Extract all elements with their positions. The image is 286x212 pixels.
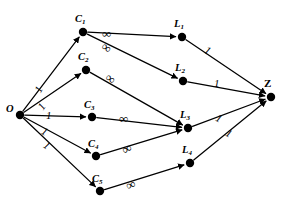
edge-capacity-label-c3-l3: ∞ — [119, 112, 128, 125]
edge-capacity-label-l2-z: 1 — [214, 78, 220, 89]
node-label-subscript: 2 — [181, 67, 185, 75]
edge-c3-to-l3 — [97, 118, 182, 128]
node-label-z: Z — [264, 78, 271, 89]
node-label-c5: C5 — [92, 174, 103, 185]
node-label-text: C — [88, 138, 95, 149]
node-label-text: C — [92, 173, 99, 184]
edge-layer — [23, 32, 266, 189]
node-label-subscript: 4 — [188, 149, 192, 157]
edge-c5-to-l4 — [105, 165, 184, 190]
node-label-c4: C4 — [88, 139, 99, 150]
node-label-l3: L3 — [180, 110, 190, 121]
node-layer — [16, 28, 275, 195]
node-label-text: C — [84, 99, 91, 110]
node-label-text: O — [6, 103, 14, 114]
node-label-c2: C2 — [78, 52, 89, 63]
edge-o-to-c1 — [23, 37, 79, 111]
node-label-c1: C1 — [75, 14, 86, 25]
node-c3 — [88, 113, 96, 121]
node-z — [267, 93, 275, 101]
node-label-subscript: 1 — [82, 18, 86, 26]
node-c4 — [92, 152, 100, 160]
node-o — [16, 111, 24, 119]
edge-o-to-c5 — [23, 118, 95, 186]
node-label-l1: L1 — [174, 19, 184, 30]
edge-o-to-c2 — [24, 74, 81, 113]
node-label-l4: L4 — [182, 145, 192, 156]
node-label-c3: C3 — [84, 100, 95, 111]
edge-o-to-c4 — [24, 117, 90, 153]
node-label-text: C — [78, 51, 85, 62]
edge-l3-to-z — [192, 99, 265, 126]
node-l2 — [179, 77, 187, 85]
node-label-text: C — [75, 13, 82, 24]
node-l3 — [184, 124, 192, 132]
node-label-subscript: 1 — [180, 23, 184, 31]
node-label-subscript: 4 — [95, 143, 99, 151]
node-c1 — [79, 28, 87, 36]
edge-c1-to-l1 — [88, 32, 176, 36]
node-label-subscript: 3 — [186, 114, 190, 122]
edge-capacity-label-o-c3: 1 — [46, 110, 52, 121]
edge-o-to-c3 — [25, 115, 86, 117]
edge-l2-to-z — [188, 82, 265, 96]
node-l1 — [178, 33, 186, 41]
node-label-o: O — [6, 104, 14, 115]
node-label-subscript: 5 — [99, 178, 103, 186]
node-label-subscript: 2 — [85, 56, 89, 64]
node-l4 — [186, 159, 194, 167]
edge-l1-to-z — [186, 40, 266, 94]
node-c2 — [82, 66, 90, 74]
node-label-text: Z — [264, 77, 271, 89]
edge-c1-to-l2 — [87, 34, 177, 78]
network-flow-diagram: OC1C2C3C4C5L1L2L3L4Z 11111∞∞∞∞∞∞1111 — [0, 0, 286, 212]
node-label-l2: L2 — [175, 63, 185, 74]
edge-c4-to-l3 — [101, 130, 182, 155]
node-c5 — [96, 187, 104, 195]
node-label-subscript: 3 — [91, 104, 95, 112]
